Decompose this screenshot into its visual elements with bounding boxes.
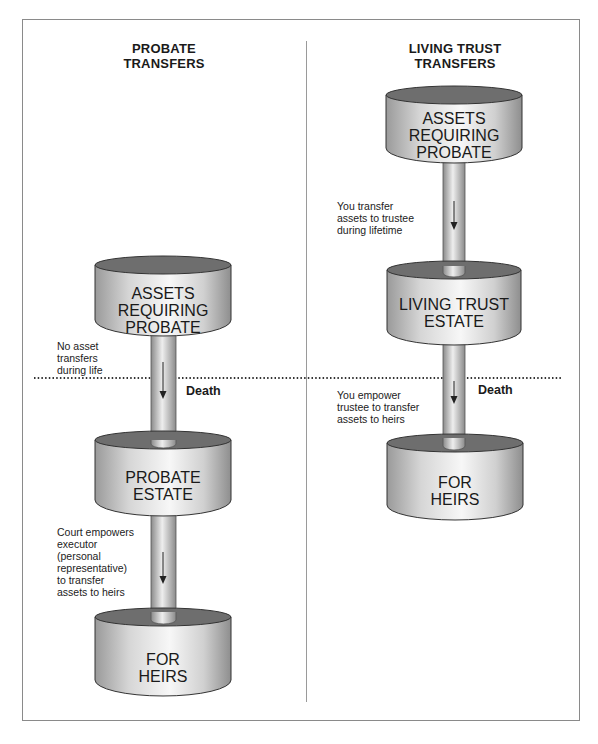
- label-assets-requiring-probate-left: ASSETS REQUIRING PROBATE: [93, 285, 233, 336]
- label-probate-estate: PROBATE ESTATE: [93, 469, 233, 503]
- label-line: PROBATE: [93, 319, 233, 336]
- label-line: PROBATE: [384, 144, 524, 161]
- label-line: ESTATE: [384, 313, 524, 330]
- note-no-asset-transfers: No asset transfers during life: [57, 340, 103, 376]
- label-line: ASSETS: [384, 110, 524, 127]
- note-line: (personal: [57, 550, 134, 562]
- label-line: REQUIRING: [93, 302, 233, 319]
- note-line: You empower: [337, 389, 419, 401]
- note-line: No asset: [57, 340, 103, 352]
- label-line: HEIRS: [93, 668, 233, 685]
- note-line: Court empowers: [57, 526, 134, 538]
- label-line: ASSETS: [93, 285, 233, 302]
- note-line: during life: [57, 364, 103, 376]
- label-line: FOR: [385, 474, 525, 491]
- label-line: LIVING TRUST: [384, 296, 524, 313]
- note-line: assets to heirs: [57, 586, 134, 598]
- note-you-empower-trustee: You empower trustee to transfer assets t…: [337, 389, 419, 425]
- note-line: representative): [57, 562, 134, 574]
- label-living-trust-estate: LIVING TRUST ESTATE: [384, 296, 524, 330]
- note-line: trustee to transfer: [337, 401, 419, 413]
- note-line: transfers: [57, 352, 103, 364]
- label-for-heirs-right: FOR HEIRS: [385, 474, 525, 508]
- label-line: HEIRS: [385, 491, 525, 508]
- note-line: You transfer: [337, 200, 414, 212]
- note-line: assets to trustee: [337, 212, 414, 224]
- death-label-left: Death: [186, 384, 221, 398]
- note-line: during lifetime: [337, 224, 414, 236]
- label-for-heirs-left: FOR HEIRS: [93, 651, 233, 685]
- label-assets-requiring-probate-right: ASSETS REQUIRING PROBATE: [384, 110, 524, 161]
- note-court-empowers-executor: Court empowers executor (personal repres…: [57, 526, 134, 598]
- label-line: PROBATE: [93, 469, 233, 486]
- label-line: REQUIRING: [384, 127, 524, 144]
- note-you-transfer-assets: You transfer assets to trustee during li…: [337, 200, 414, 236]
- label-line: FOR: [93, 651, 233, 668]
- note-line: executor: [57, 538, 134, 550]
- note-line: assets to heirs: [337, 413, 419, 425]
- label-line: ESTATE: [93, 486, 233, 503]
- note-line: to transfer: [57, 574, 134, 586]
- death-label-right: Death: [478, 383, 513, 397]
